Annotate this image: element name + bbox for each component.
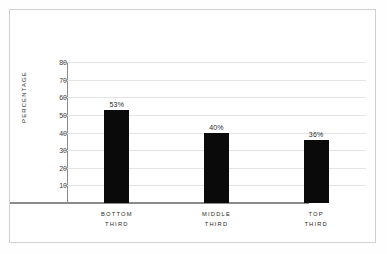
category-label-line: TOP: [271, 210, 361, 220]
category-label: BOTTOMTHIRD: [72, 210, 162, 229]
category-label-line: BOTTOM: [72, 210, 162, 220]
bar-value-label: 40%: [197, 124, 237, 131]
category-label: TOPTHIRD: [271, 210, 361, 229]
y-axis-ticks: 1020304050607080: [10, 10, 67, 254]
bar-column[interactable]: 36%: [304, 62, 329, 203]
bar-column[interactable]: 40%: [204, 62, 229, 203]
category-label-line: MIDDLE: [172, 210, 262, 220]
chart-figure: PERCENTAGE 1020304050607080 53%40%36% BO…: [0, 0, 387, 254]
bar-value-label: 53%: [97, 101, 137, 108]
x-axis-line: [10, 202, 309, 204]
category-label: MIDDLETHIRD: [172, 210, 262, 229]
bar-column[interactable]: 53%: [104, 62, 129, 203]
category-label-line: THIRD: [172, 220, 262, 230]
category-label-line: THIRD: [271, 220, 361, 230]
bar-value-label: 36%: [296, 131, 336, 138]
figure-border: PERCENTAGE 1020304050607080 53%40%36% BO…: [9, 9, 376, 243]
bar[interactable]: [304, 140, 329, 203]
bar[interactable]: [104, 110, 129, 203]
category-label-line: THIRD: [72, 220, 162, 230]
bar[interactable]: [204, 133, 229, 204]
